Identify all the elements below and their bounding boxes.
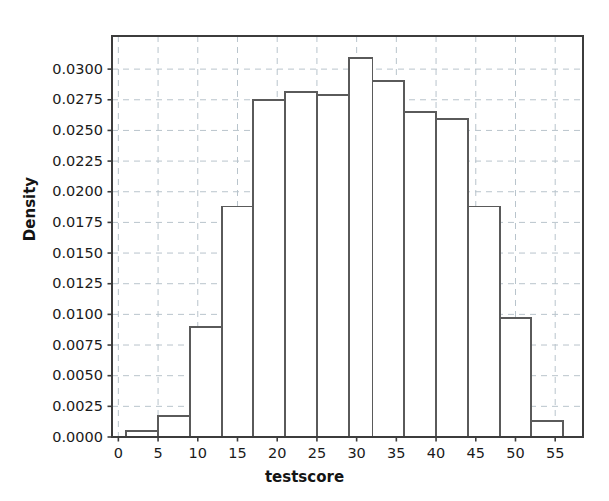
histogram-figure: 0.00000.00250.00500.00750.01000.01250.01… [0, 0, 609, 501]
histogram-bar [222, 206, 254, 437]
y-tick-label: 0.0125 [52, 276, 103, 291]
y-tick-label: 0.0100 [52, 307, 103, 322]
y-tick-label: 0.0000 [52, 430, 103, 445]
histogram-bar [349, 58, 373, 437]
y-tick-label: 0.0175 [52, 215, 103, 230]
histogram-bar [285, 92, 317, 437]
y-tick-label: 0.0150 [52, 246, 103, 261]
y-tick-label: 0.0025 [52, 399, 103, 414]
histogram-bar [436, 119, 468, 437]
histogram-bar [404, 112, 436, 437]
y-tick-label: 0.0200 [52, 184, 103, 199]
y-tick-label: 0.0275 [52, 92, 103, 107]
y-tick-label: 0.0075 [52, 338, 103, 353]
y-tick-label: 0.0250 [52, 123, 103, 138]
y-tick-label: 0.0050 [52, 368, 103, 383]
x-tick-label: 55 [530, 446, 580, 461]
y-axis-title: Density [21, 139, 39, 279]
histogram-bar [531, 421, 563, 437]
histogram-bar [158, 416, 190, 437]
histogram-bar [317, 95, 349, 437]
histogram-bar [468, 206, 500, 437]
histogram-bar [126, 431, 158, 437]
x-axis-title: testscore [0, 468, 609, 486]
y-tick-label: 0.0225 [52, 154, 103, 169]
histogram-bar [190, 327, 222, 437]
histogram-bars [126, 58, 563, 437]
histogram-bar [253, 100, 285, 437]
histogram-bar [373, 81, 405, 437]
histogram-bar [500, 318, 532, 437]
y-tick-label: 0.0300 [52, 62, 103, 77]
